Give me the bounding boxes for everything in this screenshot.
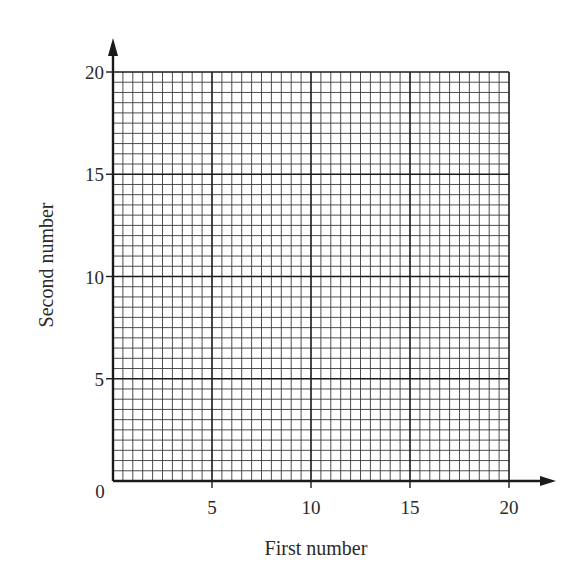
x-tick-label: 5 <box>207 497 217 518</box>
origin-label: 0 <box>95 481 105 502</box>
y-axis-title: Second number <box>35 202 57 327</box>
x-tick-label: 20 <box>500 497 519 518</box>
chart-canvas: 51015205101520 0 First number Second num… <box>0 0 584 576</box>
y-tick-label: 10 <box>85 267 104 288</box>
x-tick-label: 10 <box>302 497 321 518</box>
x-axis-title: First number <box>265 537 368 559</box>
y-tick-label: 15 <box>85 164 104 185</box>
y-tick-label: 5 <box>95 369 105 390</box>
y-tick-label: 20 <box>85 62 104 83</box>
x-tick-label: 15 <box>401 497 420 518</box>
tick-labels: 51015205101520 <box>85 62 519 518</box>
